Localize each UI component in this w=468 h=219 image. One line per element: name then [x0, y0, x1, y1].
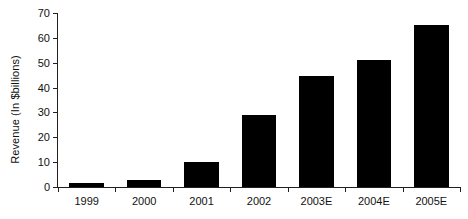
x-axis-tick-label: 2000: [132, 195, 156, 207]
y-axis-tick: [53, 63, 58, 64]
x-axis-tick: [403, 187, 404, 192]
y-axis-tick: [53, 112, 58, 113]
x-axis-tick-label: 2005E: [415, 195, 447, 207]
x-axis-tick-label: 2001: [189, 195, 213, 207]
x-axis-tick: [460, 187, 461, 192]
bar-chart: Revenue (In $billions) 010203040506070 1…: [0, 0, 468, 219]
x-axis-tick: [58, 187, 59, 192]
y-axis-tick: [53, 162, 58, 163]
y-axis-tick-label: 20: [38, 131, 50, 143]
bar: [127, 180, 161, 187]
x-axis-tick-label: 2002: [247, 195, 271, 207]
bar: [242, 115, 276, 187]
x-axis-tick: [173, 187, 174, 192]
y-axis-tick-label: 40: [38, 82, 50, 94]
y-axis-tick: [53, 88, 58, 89]
x-axis-tick-label: 2004E: [358, 195, 390, 207]
bar: [69, 183, 103, 187]
bar: [299, 76, 333, 187]
bar: [184, 162, 218, 187]
x-axis-tick: [115, 187, 116, 192]
y-axis-tick-label: 50: [38, 57, 50, 69]
y-axis-tick-label: 30: [38, 106, 50, 118]
y-axis-tick-label: 70: [38, 7, 50, 19]
y-axis-tick: [53, 137, 58, 138]
x-axis-tick-label: 2003E: [301, 195, 333, 207]
y-axis-title: Revenue (In $billions): [0, 0, 30, 219]
x-axis-tick-label: 1999: [74, 195, 98, 207]
x-axis-tick: [288, 187, 289, 192]
y-axis-tick-label: 10: [38, 156, 50, 168]
plot-area: 010203040506070 19992000200120022003E200…: [57, 13, 460, 188]
y-axis-tick: [53, 38, 58, 39]
bar: [357, 60, 391, 187]
y-axis-tick-label: 0: [44, 181, 50, 193]
x-axis-tick: [230, 187, 231, 192]
y-axis-tick-label: 60: [38, 32, 50, 44]
x-axis-tick: [345, 187, 346, 192]
bar: [414, 25, 448, 187]
y-axis-tick: [53, 13, 58, 14]
